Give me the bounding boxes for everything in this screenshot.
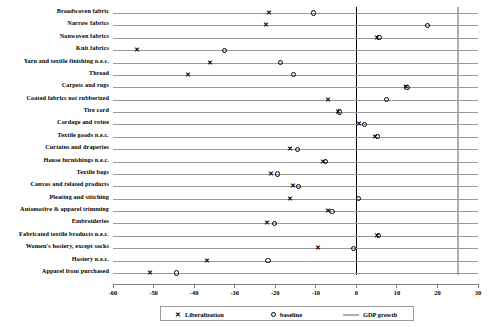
category-gridline	[113, 261, 478, 262]
category-label: Curtains and draperies	[45, 143, 109, 151]
category-label: Pleating and stitching	[49, 193, 109, 201]
x-axis-tick	[437, 284, 438, 288]
category-gridline	[113, 112, 478, 113]
legend-entry-liberalization: ✕ Liberalization	[175, 307, 224, 322]
category-label: Thread	[89, 69, 109, 77]
category-label: Cordage and twine	[57, 118, 109, 126]
data-point-liberalization	[324, 96, 332, 104]
category-label: Broadwoven fabric	[57, 7, 109, 15]
category-label: Hosiery n.e.c.	[72, 255, 109, 263]
legend-entry-baseline: baseline	[271, 307, 302, 322]
category-gridline	[113, 236, 478, 237]
data-point-liberalization	[133, 46, 141, 54]
category-gridline	[113, 100, 478, 101]
x-axis-tick	[275, 284, 276, 288]
category-label: Yarn and textile finishing n.e.c.	[24, 57, 109, 65]
category-label: Automotive & apparel trimming	[20, 205, 109, 213]
category-label: Textile bags	[77, 168, 109, 176]
x-axis-tick	[194, 284, 195, 288]
data-point-baseline	[295, 147, 300, 152]
category-gridline	[113, 223, 478, 224]
category-gridline	[113, 38, 478, 39]
x-axis-tick	[356, 284, 357, 288]
data-point-baseline	[425, 23, 430, 28]
category-label: Carpets and rugs	[62, 81, 109, 89]
category-label: Knit fabrics	[76, 44, 109, 52]
data-point-liberalization	[267, 170, 275, 178]
circle-marker-icon	[271, 312, 276, 317]
data-point-liberalization	[203, 257, 211, 265]
data-point-baseline	[329, 209, 334, 214]
category-gridline	[113, 273, 478, 274]
category-gridline	[113, 174, 478, 175]
data-point-baseline	[272, 221, 277, 226]
data-point-liberalization	[265, 9, 273, 17]
chart-container: Broadwoven fabricNarrow fabricsNonwoven …	[0, 0, 488, 327]
x-axis-tick	[478, 284, 479, 288]
x-axis-tick-label: -50	[149, 289, 158, 296]
data-point-liberalization	[206, 59, 214, 67]
zero-reference-line	[356, 7, 358, 275]
gdp-growth-reference-line	[457, 7, 459, 275]
x-axis-tick-label: 30	[475, 289, 481, 296]
data-point-liberalization	[286, 195, 294, 203]
data-point-baseline	[278, 60, 283, 65]
data-point-baseline	[362, 122, 367, 127]
category-gridline	[113, 63, 478, 64]
category-label: Coated fabrics not rubberized	[27, 94, 109, 102]
data-point-baseline	[376, 35, 381, 40]
category-label: House furnishings n.e.c.	[44, 156, 110, 164]
x-axis-tick-label: -30	[230, 289, 239, 296]
category-label: Apparel from purchased	[42, 267, 109, 275]
category-label: Nonwoven fabrics	[60, 32, 109, 40]
data-point-baseline	[337, 109, 342, 114]
data-point-liberalization	[146, 269, 154, 277]
legend-label-liberalization: Liberalization	[185, 311, 224, 318]
category-gridline	[113, 199, 478, 200]
x-axis-tick	[234, 284, 235, 288]
legend-label-baseline: baseline	[280, 311, 302, 318]
data-point-baseline	[222, 48, 227, 53]
category-gridline	[113, 137, 478, 138]
category-label: Women's hosiery, except socks	[26, 242, 109, 250]
x-axis-tick-label: -20	[271, 289, 280, 296]
data-point-liberalization	[184, 71, 192, 79]
line-marker-icon	[343, 314, 359, 316]
x-axis-tick-label: 20	[434, 289, 440, 296]
category-gridline	[113, 211, 478, 212]
data-point-baseline	[404, 85, 409, 90]
category-label: Embroideries	[72, 217, 109, 225]
data-point-liberalization	[262, 21, 270, 29]
category-label: Tire cord	[83, 106, 109, 114]
legend-label-gdp-growth: GDP growth	[363, 311, 397, 318]
x-marker-icon: ✕	[175, 311, 181, 319]
category-label: Canvas and related products	[30, 180, 109, 188]
category-gridline	[113, 25, 478, 26]
x-axis: -60-50-40-30-20-100102030	[113, 284, 478, 285]
category-gridline	[113, 248, 478, 249]
category-label: Narrow fabrics	[67, 19, 109, 27]
data-point-baseline	[265, 258, 270, 263]
x-axis-tick-label: 10	[394, 289, 400, 296]
x-axis-tick	[153, 284, 154, 288]
data-point-baseline	[174, 270, 179, 275]
category-gridline	[113, 13, 478, 14]
x-axis-tick	[396, 284, 397, 288]
data-point-baseline	[323, 159, 328, 164]
x-axis-tick-label: -40	[190, 289, 199, 296]
data-point-baseline	[351, 246, 356, 251]
data-point-liberalization	[286, 145, 294, 153]
x-axis-tick-label: 0	[355, 289, 358, 296]
x-axis-tick-label: -10	[312, 289, 321, 296]
data-point-baseline	[356, 196, 361, 201]
category-gridline	[113, 87, 478, 88]
category-gridline	[113, 50, 478, 51]
x-axis-tick	[113, 284, 114, 288]
data-point-liberalization	[263, 219, 271, 227]
x-axis-tick	[315, 284, 316, 288]
data-point-baseline	[275, 171, 280, 176]
data-point-baseline	[311, 10, 316, 15]
data-point-liberalization	[314, 244, 322, 252]
data-point-baseline	[291, 72, 296, 77]
data-point-baseline	[384, 97, 389, 102]
